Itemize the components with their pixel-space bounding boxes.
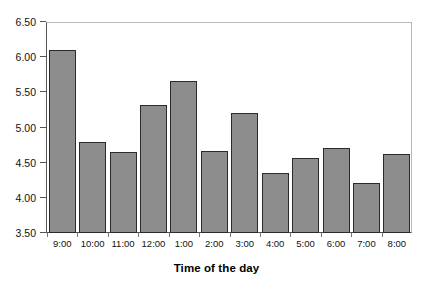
bar-slot	[77, 22, 107, 233]
y-axis-tick-mark	[40, 21, 46, 22]
bar[interactable]	[353, 183, 380, 233]
bar-slot	[382, 22, 412, 233]
bar-slot	[321, 22, 351, 233]
bar[interactable]	[231, 113, 258, 233]
x-axis-tick-label: 3:00	[230, 238, 260, 250]
bar-slot	[138, 22, 168, 233]
y-axis-tick-label: 5.50	[0, 86, 36, 98]
y-axis-tick-label: 6.50	[0, 16, 36, 28]
y-axis-tick-mark	[40, 56, 46, 57]
bar[interactable]	[49, 50, 76, 233]
x-axis-tick-label: 10:00	[77, 238, 107, 250]
x-axis-tick-label: 11:00	[108, 238, 138, 250]
y-axis-tick-label: 4.50	[0, 157, 36, 169]
y-axis-tick: 6.00	[0, 51, 46, 63]
bar-slot	[260, 22, 290, 233]
bar[interactable]	[170, 81, 197, 233]
y-axis: 6.506.005.505.004.504.003.50	[0, 0, 46, 299]
bar-slot	[47, 22, 77, 233]
y-axis-tick-mark	[40, 162, 46, 163]
bar-slot	[169, 22, 199, 233]
y-axis-tick-mark	[40, 127, 46, 128]
bar[interactable]	[323, 148, 350, 233]
bar[interactable]	[201, 151, 228, 233]
x-axis-tick-label: 9:00	[47, 238, 77, 250]
y-axis-tick: 3.50	[0, 227, 46, 239]
y-axis-tick: 5.00	[0, 122, 46, 134]
bar[interactable]	[140, 105, 167, 233]
bar[interactable]	[292, 158, 319, 233]
y-axis-tick-mark	[40, 91, 46, 92]
bar-slot	[199, 22, 229, 233]
x-axis-labels: 9:0010:0011:0012:001:002:003:004:005:006…	[47, 238, 412, 250]
bar[interactable]	[110, 152, 137, 233]
x-axis-title: Time of the day	[0, 262, 433, 274]
y-axis-tick: 4.00	[0, 192, 46, 204]
y-axis-tick-label: 5.00	[0, 122, 36, 134]
bars-container	[47, 22, 412, 233]
y-axis-tick-label: 6.00	[0, 51, 36, 63]
x-axis-tick-label: 2:00	[199, 238, 229, 250]
x-axis-tick-label: 12:00	[138, 238, 168, 250]
bar-slot	[351, 22, 381, 233]
bar-slot	[108, 22, 138, 233]
x-axis-tick-label: 1:00	[169, 238, 199, 250]
bar[interactable]	[262, 173, 289, 233]
y-axis-tick-mark	[40, 232, 46, 233]
y-axis-tick-label: 4.00	[0, 192, 36, 204]
y-axis-tick-label: 3.50	[0, 227, 36, 239]
x-axis-tick-label: 5:00	[290, 238, 320, 250]
bar-slot	[290, 22, 320, 233]
bar-slot	[230, 22, 260, 233]
y-axis-tick: 6.50	[0, 16, 46, 28]
x-axis-tick-label: 7:00	[351, 238, 381, 250]
bar[interactable]	[383, 154, 410, 233]
y-axis-tick: 5.50	[0, 86, 46, 98]
y-axis-tick-mark	[40, 197, 46, 198]
x-axis-tick-label: 8:00	[382, 238, 412, 250]
x-axis-tick-label: 6:00	[321, 238, 351, 250]
bar-chart: 6.506.005.505.004.504.003.50 9:0010:0011…	[0, 0, 433, 299]
x-axis-tick-label: 4:00	[260, 238, 290, 250]
y-axis-tick: 4.50	[0, 157, 46, 169]
bar[interactable]	[79, 142, 106, 233]
